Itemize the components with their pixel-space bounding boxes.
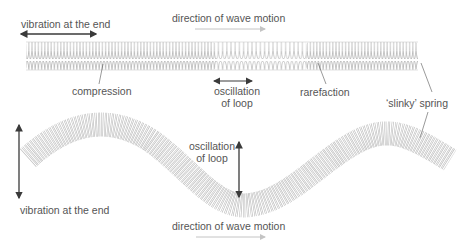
vibration-label-bottom: vibration at the end: [20, 204, 109, 216]
oscillation-line1: oscillation: [182, 140, 242, 152]
spring-leader-top: [421, 63, 432, 92]
longitudinal-spring: [26, 42, 418, 70]
oscillation-label-top: oscillation of loop: [207, 85, 267, 109]
direction-label-top: direction of wave motion: [172, 12, 285, 24]
oscillation-line1: oscillation: [207, 85, 267, 97]
oscillation-label-bottom: oscillation of loop: [182, 140, 242, 164]
oscillation-line2: of loop: [182, 152, 242, 164]
slinky-spring-label: ‘slinky’ spring: [386, 97, 448, 109]
rarefaction-label: rarefaction: [300, 86, 350, 98]
oscillation-line2: of loop: [207, 97, 267, 109]
vibration-label-top: vibration at the end: [21, 18, 110, 30]
compression-label: compression: [72, 85, 132, 97]
direction-label-bottom: direction of wave motion: [172, 220, 285, 232]
